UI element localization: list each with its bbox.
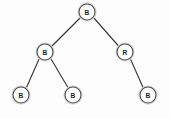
tree-edge-root-to-n-l [51, 18, 81, 48]
tree-edge-n-l-to-n-ll [26, 58, 40, 89]
tree-edge-root-to-n-r [94, 18, 120, 47]
node-label-root: B [85, 9, 90, 16]
tree-node-n-r[interactable]: R [116, 43, 134, 61]
tree-node-n-lr[interactable]: B [64, 86, 82, 104]
tree-node-n-l[interactable]: B [36, 43, 54, 61]
tree-edge-n-r-to-n-rr [130, 58, 144, 89]
binary-tree-svg: BBRBBB [0, 0, 169, 118]
node-label-n-l: B [43, 49, 48, 56]
tree-edge-n-l-to-n-lr [51, 58, 69, 89]
node-label-n-r: R [123, 49, 128, 56]
tree-diagram-canvas: BBRBBB [0, 0, 169, 118]
node-label-n-rr: B [146, 92, 151, 99]
node-label-n-ll: B [19, 92, 24, 99]
tree-node-n-ll[interactable]: B [12, 86, 30, 104]
tree-node-root[interactable]: B [78, 3, 96, 21]
tree-nodes-group: BBRBBB [12, 3, 157, 104]
tree-node-n-rr[interactable]: B [139, 86, 157, 104]
node-label-n-lr: B [71, 92, 76, 99]
